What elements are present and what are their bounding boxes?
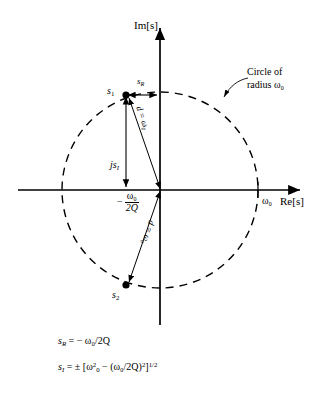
real-part-label: sR (137, 77, 144, 86)
equation-real-part: sR = − ω₀/2Q (58, 336, 110, 346)
imag-part-label: jsI (110, 160, 119, 170)
pole-s1-label: s1 (107, 86, 114, 96)
real-coordinate-label: − ω₀ 2Q (117, 191, 140, 213)
imag-part-symbol: js (110, 159, 117, 170)
eq2-lhs-subscript: I (62, 366, 64, 373)
circle-note-line2: radius ω₀ (247, 79, 284, 92)
eq2-rhs-prefix: = ± [ω (67, 361, 93, 372)
real-coordinate-denominator: 2Q (124, 203, 140, 214)
pole-s1-subscript: 1 (111, 90, 114, 97)
real-part-subscript: R (141, 81, 145, 87)
pole-s2-subscript: 2 (116, 294, 119, 301)
eq2-sup3: 1/2 (149, 361, 158, 368)
eq2-sub1: 0 (96, 366, 99, 373)
real-axis-tick-label: ω₀ (262, 196, 272, 206)
pole-s1-marker (122, 91, 129, 98)
eq1-rhs: = − ω₀/2Q (69, 335, 110, 346)
pole-s2-label: s2 (112, 290, 119, 300)
real-coordinate-minus: − (117, 197, 123, 207)
pole-s2-marker (122, 281, 129, 288)
circle-note-leader (224, 78, 248, 97)
imaginary-axis-label: Im[s] (134, 20, 158, 31)
real-coordinate-numerator: ω₀ (125, 191, 139, 203)
equation-imag-part: sI = ± [ω20 − (ω₀/2Q)2]1/2 (58, 362, 157, 372)
eq2-sup2: 2 (142, 361, 145, 368)
imag-part-subscript: I (117, 164, 119, 171)
circle-note: Circle of radius ω₀ (247, 66, 284, 91)
eq2-rhs-mid: − (ω₀/2Q) (100, 361, 142, 372)
eq1-lhs-subscript: R (62, 340, 66, 347)
real-coordinate-fraction: ω₀ 2Q (124, 191, 140, 213)
real-axis-label: Re[s] (280, 196, 304, 207)
real-part-symbol: s (137, 76, 141, 86)
figure-root: Im[s] ω₀ Re[s] s1 s2 sR jsI d = ω₀ d = ω… (0, 0, 320, 393)
circle-note-line1: Circle of (247, 66, 284, 79)
